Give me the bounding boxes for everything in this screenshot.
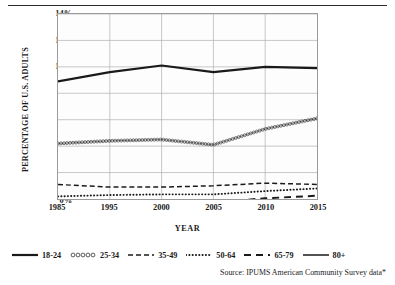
legend-item-18-24[interactable]: 18-24 xyxy=(12,250,61,260)
legend-label: 25-34 xyxy=(100,251,119,260)
legend-label: 35-49 xyxy=(158,251,177,260)
chart-page: PERCENTAGE OF U.S. ADULTS 0%2%4%6%8%10%1… xyxy=(0,0,395,285)
legend-swatch-icon xyxy=(244,250,270,260)
x-tick-label: 2000 xyxy=(138,203,184,212)
series-line-35-49 xyxy=(58,183,317,187)
legend-swatch-icon xyxy=(186,250,212,260)
x-axis-title: YEAR xyxy=(57,224,318,233)
y-axis-title: PERCENTAGE OF U.S. ADULTS xyxy=(21,25,30,195)
x-tick-label: 2010 xyxy=(243,203,289,212)
data-series-group xyxy=(58,66,317,199)
x-tick-label: 1985 xyxy=(34,203,80,212)
legend-swatch-icon xyxy=(128,250,154,260)
legend-item-50-64[interactable]: 50-64 xyxy=(186,250,235,260)
x-tick-label: 1995 xyxy=(86,203,132,212)
legend-swatch-icon xyxy=(12,250,38,260)
legend-item-25-34[interactable]: 25-34 xyxy=(70,250,119,260)
gridlines xyxy=(58,14,317,199)
legend-item-80+[interactable]: 80+ xyxy=(303,250,346,260)
legend-item-65-79[interactable]: 65-79 xyxy=(244,250,293,260)
legend-label: 50-64 xyxy=(216,251,235,260)
legend-swatch-icon xyxy=(303,250,329,260)
legend-label: 18-24 xyxy=(42,251,61,260)
x-tick-label: 2005 xyxy=(191,203,237,212)
legend-label: 65-79 xyxy=(274,251,293,260)
legend-label: 80+ xyxy=(333,251,346,260)
source-note: Source: IPUMS American Community Survey … xyxy=(220,268,386,277)
series-line-50-64 xyxy=(58,188,317,196)
legend-item-35-49[interactable]: 35-49 xyxy=(128,250,177,260)
chart-canvas xyxy=(58,14,317,199)
series-line-65-79 xyxy=(58,196,317,199)
x-tick-label: 2015 xyxy=(295,203,341,212)
series-line-18-24 xyxy=(58,66,317,82)
legend-swatch-icon xyxy=(70,250,96,260)
top-rule xyxy=(8,5,387,6)
chart-legend: 18-2425-3435-4950-6465-7980+ xyxy=(12,250,384,260)
plot-area xyxy=(57,13,318,200)
